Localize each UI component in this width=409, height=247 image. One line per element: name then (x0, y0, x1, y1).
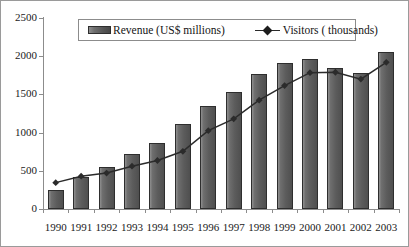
x-tick-mark (68, 209, 69, 213)
y-tick-mark (39, 171, 44, 172)
bar-2002 (353, 73, 369, 209)
bar-2001 (327, 68, 343, 209)
bar-1992 (99, 167, 115, 209)
x-tick-mark (170, 209, 171, 213)
bar-1995 (175, 124, 191, 209)
legend-item-visitors: Visitors ( thousands) (255, 20, 378, 40)
visitors-marker-1990: Visitors ( thousands) 1990: 345 (52, 179, 59, 186)
y-tick-label: 1000 (3, 127, 37, 138)
x-tick-label-2003: 2003 (371, 221, 401, 233)
x-tick-mark (374, 209, 375, 213)
y-tick-label: 500 (3, 165, 37, 176)
bar-1996 (200, 106, 216, 209)
bar-1994 (149, 143, 165, 209)
legend-label-visitors: Visitors ( thousands) (283, 24, 378, 36)
legend-item-revenue: Revenue (US$ millions) (88, 20, 225, 40)
bar-1998 (251, 74, 267, 209)
legend-line-swatch-icon (255, 26, 280, 35)
chart-legend: Revenue (US$ millions) Visitors ( thousa… (78, 19, 356, 41)
x-tick-mark (196, 209, 197, 213)
x-tick-mark (399, 209, 400, 213)
x-tick-mark (221, 209, 222, 213)
legend-bar-swatch-icon (88, 26, 111, 34)
x-tick-mark (348, 209, 349, 213)
bar-1997 (226, 92, 242, 209)
x-tick-mark (119, 209, 120, 213)
bar-1991 (73, 177, 89, 209)
y-tick-label: 2000 (3, 50, 37, 61)
y-tick-mark (39, 133, 44, 134)
x-tick-mark (145, 209, 146, 213)
legend-label-revenue: Revenue (US$ millions) (113, 24, 225, 36)
bar-1999 (277, 63, 293, 209)
x-tick-mark (272, 209, 273, 213)
x-tick-mark (323, 209, 324, 213)
y-tick-label: 1500 (3, 88, 37, 99)
y-tick-mark (39, 56, 44, 57)
x-tick-mark (297, 209, 298, 213)
x-tick-mark (43, 209, 44, 213)
y-tick-mark (39, 94, 44, 95)
bar-1993 (124, 154, 140, 209)
x-tick-mark (94, 209, 95, 213)
bar-1990 (48, 190, 64, 209)
bar-2003 (378, 52, 394, 209)
y-tick-mark (39, 18, 44, 19)
y-axis-line (43, 17, 44, 210)
bar-2000 (302, 59, 318, 209)
chart-figure: 05001000150020002500 Visitors ( thousand… (0, 0, 409, 247)
y-tick-label: 2500 (3, 12, 37, 23)
x-tick-mark (246, 209, 247, 213)
y-tick-label: 0 (3, 203, 37, 214)
